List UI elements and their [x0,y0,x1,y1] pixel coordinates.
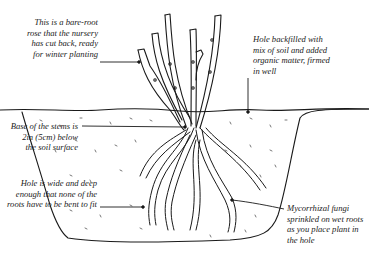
annotation-backfill: Hole backfilled with mix of soil and add… [253,34,330,76]
rose-roots [140,128,266,232]
annotation-hole-size: Hole is wide and deep enough that none o… [7,178,97,210]
annotation-bare-root: This is a bare-root rose that the nurser… [27,17,98,59]
rose-stems [138,14,221,130]
annotation-fungi: Mycorrhizal fungi sprinkled on wet roots… [287,203,363,245]
annotation-stem-base: Base of the stems is 2in (5cm) below the… [11,121,78,153]
leader-lines [82,61,284,209]
